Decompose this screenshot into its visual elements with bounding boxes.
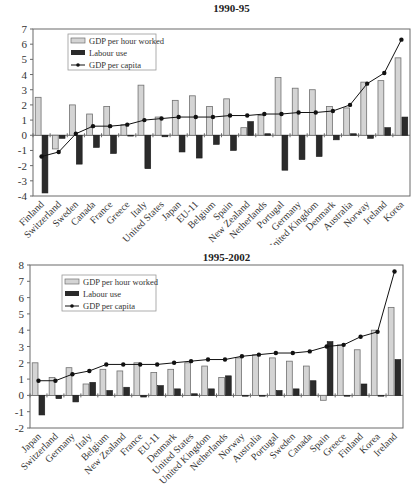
chart-title: 1990-95 (213, 2, 250, 14)
bar-labour-use (124, 387, 130, 395)
bar-gdp-per-hour (83, 384, 89, 395)
chart-svg-1990-95: 1990-9576543210-1-2-3-4FinlandSwitzerlan… (0, 0, 419, 245)
y-tick-label: -2 (15, 422, 24, 434)
marker-gdp-per-capita (358, 335, 362, 339)
bar-gdp-per-hour (35, 97, 41, 135)
bar-labour-use (316, 135, 322, 156)
bar-labour-use (76, 135, 82, 164)
y-tick-label: -4 (18, 190, 28, 202)
marker-gdp-per-capita (296, 110, 300, 114)
chart-svg-1995-2002: 1995-2002876543210-1-2JapanSwitzerlandGe… (0, 245, 419, 502)
bar-labour-use (141, 395, 147, 397)
bar-labour-use (395, 360, 401, 396)
legend: GDP per hour workedLabour useGDP per cap… (62, 275, 159, 311)
y-tick-label: 5 (19, 308, 25, 320)
bar-labour-use (56, 395, 62, 398)
marker-gdp-per-capita (314, 110, 318, 114)
y-tick-label: 7 (19, 275, 25, 287)
y-tick-label: 5 (22, 53, 28, 65)
bar-gdp-per-hour (287, 361, 293, 395)
marker-gdp-per-capita (331, 109, 335, 113)
marker-gdp-per-capita (399, 37, 403, 41)
marker-gdp-per-capita (291, 351, 295, 355)
bar-gdp-per-hour (236, 358, 242, 395)
bar-gdp-per-hour (219, 377, 225, 395)
legend-label-labour-use: Labour use (83, 289, 121, 299)
x-category-label: Korea (381, 198, 406, 223)
bar-labour-use (162, 135, 168, 137)
bar-gdp-per-hour (320, 395, 326, 400)
marker-gdp-per-capita (348, 103, 352, 107)
bar-gdp-per-hour (354, 350, 360, 396)
chart-title: 1995-2002 (203, 251, 251, 263)
y-tick-label: 1 (19, 373, 25, 385)
bar-gdp-per-hour (337, 345, 343, 396)
legend-label-labour-use: Labour use (89, 48, 127, 58)
bar-gdp-per-hour (185, 363, 191, 396)
marker-gdp-per-capita (155, 362, 159, 366)
marker-gdp-per-capita (325, 344, 329, 348)
marker-gdp-per-capita (189, 359, 193, 363)
bar-gdp-per-hour (395, 58, 401, 135)
bar-gdp-per-hour (66, 368, 72, 396)
marker-gdp-per-capita (121, 362, 125, 366)
marker-gdp-per-capita (125, 122, 129, 126)
chart-1995-2002: 1995-2002876543210-1-2JapanSwitzerlandGe… (0, 245, 419, 502)
bar-labour-use (402, 117, 408, 135)
marker-gdp-per-capita (257, 352, 261, 356)
bar-gdp-per-hour (70, 105, 76, 135)
bar-gdp-per-hour (100, 369, 106, 395)
marker-gdp-per-capita (39, 154, 43, 158)
legend-swatch-gdp-per-hour-icon (65, 279, 79, 284)
bar-gdp-per-hour (207, 106, 213, 135)
bar-labour-use (282, 135, 288, 170)
marker-gdp-per-capita (36, 379, 40, 383)
marker-gdp-per-capita (375, 330, 379, 334)
bar-labour-use (73, 395, 79, 402)
bar-labour-use (90, 382, 96, 395)
bar-gdp-per-hour (371, 330, 377, 395)
bar-labour-use (111, 135, 117, 153)
bar-gdp-per-hour (258, 116, 264, 136)
bar-labour-use (333, 135, 339, 140)
marker-gdp-per-capita (176, 115, 180, 119)
bar-gdp-per-hour (104, 106, 110, 135)
bar-labour-use (351, 134, 357, 136)
bar-labour-use (192, 394, 198, 396)
bar-gdp-per-hour (202, 366, 208, 395)
marker-gdp-per-capita (108, 124, 112, 128)
legend: GDP per hour workedLabour useGDP per cap… (68, 34, 165, 70)
bar-labour-use (196, 135, 202, 158)
marker-gdp-per-capita (211, 115, 215, 119)
bar-gdp-per-hour (168, 369, 174, 395)
y-tick-label: 8 (19, 259, 25, 271)
y-tick-label: 6 (22, 38, 28, 50)
y-tick-label: 2 (19, 357, 25, 369)
legend-label-gdp-per-hour: GDP per hour worked (83, 277, 159, 287)
bar-labour-use (39, 395, 45, 415)
y-tick-label: 0 (22, 129, 28, 141)
bar-labour-use (293, 389, 299, 396)
bar-labour-use (299, 135, 305, 159)
bar-labour-use (128, 135, 134, 136)
marker-gdp-per-capita (365, 81, 369, 85)
bar-labour-use (265, 134, 271, 136)
marker-gdp-per-capita (245, 113, 249, 117)
bar-labour-use (378, 395, 384, 396)
bar-labour-use (175, 389, 181, 396)
legend-swatch-labour-use-icon (65, 291, 79, 296)
bar-labour-use (368, 135, 374, 138)
legend-swatch-gdp-per-hour-icon (71, 38, 85, 43)
bar-labour-use (344, 395, 350, 396)
marker-gdp-per-capita (279, 112, 283, 116)
y-tick-label: -1 (15, 406, 24, 418)
bar-labour-use (310, 381, 316, 396)
legend-label-gdp-per-hour: GDP per hour worked (89, 36, 165, 46)
bar-gdp-per-hour (275, 78, 281, 136)
bar-labour-use (42, 135, 48, 193)
bar-labour-use (385, 128, 391, 136)
bar-labour-use (225, 376, 231, 396)
marker-gdp-per-capita (57, 150, 61, 154)
bar-gdp-per-hour (270, 358, 276, 395)
bar-gdp-per-hour (52, 135, 58, 149)
